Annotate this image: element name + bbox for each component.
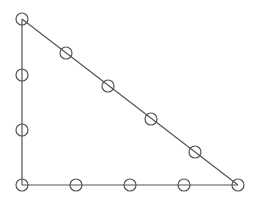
triangle-edge [22, 19, 238, 185]
node-circle [145, 113, 157, 125]
triangle-diagram [0, 0, 259, 208]
node-circle [102, 80, 114, 92]
